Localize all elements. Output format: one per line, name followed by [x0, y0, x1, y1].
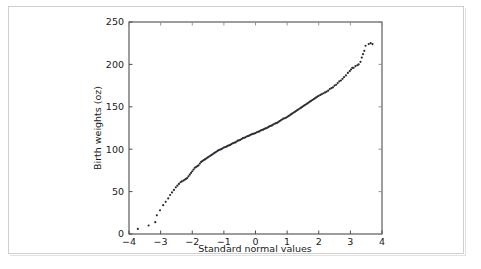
y-tick-label: 250 [106, 16, 124, 27]
data-point [364, 45, 366, 47]
data-point [368, 43, 370, 45]
y-axis-tick-labels: 050100150200250 [106, 16, 124, 239]
data-point [345, 74, 347, 76]
x-tick-label: 3 [347, 236, 353, 247]
data-point [340, 79, 342, 81]
data-point [359, 61, 361, 63]
x-tick-label: 4 [379, 236, 385, 247]
data-point [156, 214, 158, 216]
axes-spines [129, 22, 382, 234]
data-point [159, 209, 161, 211]
data-point [341, 78, 343, 80]
data-point [176, 185, 178, 187]
data-point [361, 57, 363, 59]
data-point [347, 72, 349, 74]
data-point [165, 201, 167, 203]
data-point [169, 194, 171, 196]
data-point [154, 221, 156, 223]
figure-root: −4−3−2−101234 050100150200250 Standard n… [0, 0, 481, 269]
y-tick-label: 150 [106, 101, 124, 112]
data-point [362, 53, 364, 55]
data-point [352, 67, 354, 69]
data-point [173, 189, 175, 191]
data-point [137, 228, 139, 230]
data-point [370, 42, 372, 44]
data-point [363, 50, 365, 52]
data-point [335, 84, 337, 86]
data-point [371, 43, 373, 45]
data-point [354, 65, 356, 67]
y-tick-label: 100 [106, 144, 124, 155]
data-point [358, 63, 360, 65]
data-point [178, 183, 180, 185]
y-axis-title: Birth weights (oz) [92, 86, 103, 170]
data-point [337, 82, 339, 84]
data-point [171, 191, 173, 193]
scatter-series [137, 42, 374, 230]
x-tick-label: 2 [316, 236, 322, 247]
data-point [343, 76, 345, 78]
x-tick-label: −2 [185, 236, 199, 247]
y-tick-label: 200 [106, 59, 124, 70]
x-tick-label: −4 [122, 236, 136, 247]
data-point [167, 197, 169, 199]
y-tick-label: 50 [112, 186, 124, 197]
data-point [162, 204, 164, 206]
data-point [332, 86, 334, 88]
x-tick-label: −3 [154, 236, 168, 247]
y-tick-label: 0 [118, 228, 124, 239]
data-point [327, 90, 329, 92]
qq-plot-chart: −4−3−2−101234 050100150200250 Standard n… [0, 0, 481, 269]
data-point [148, 224, 150, 226]
data-point [175, 186, 177, 188]
x-axis-title: Standard normal values [198, 243, 311, 254]
